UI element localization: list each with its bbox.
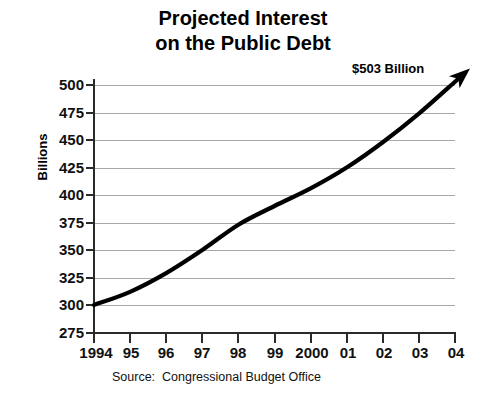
source-note: Source: Congressional Budget Office [112,370,321,384]
endpoint-value-annotation: $503 Billion [352,62,424,76]
series-line-projected-interest [94,80,457,305]
chart-container: Projected Interest on the Public Debt Bi… [0,0,486,397]
series-layer [0,0,486,397]
